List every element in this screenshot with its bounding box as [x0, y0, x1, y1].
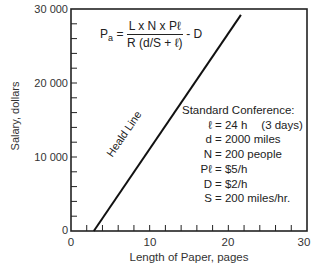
condition-value: = 200 people — [215, 147, 282, 162]
x-tick-0: 0 — [56, 236, 86, 248]
condition-value: = $5/h — [215, 162, 247, 177]
condition-row: Pℓ = $5/h — [182, 162, 303, 177]
formula-lhs: Pa — [100, 27, 113, 41]
condition-key: D — [182, 177, 215, 192]
formula-numerator: L x N x Pℓ — [127, 19, 183, 35]
condition-value: = 24 h — [215, 118, 247, 133]
y-tick-10000: 10 000 — [34, 151, 68, 163]
condition-value: = 200 miles/hr. — [215, 191, 290, 206]
formula-tail: - D — [186, 27, 202, 41]
condition-row: N = 200 people — [182, 147, 303, 162]
condition-row: D = $2/h — [182, 177, 303, 192]
condition-note: (3 days) — [261, 118, 303, 133]
x-tick-10: 10 — [135, 236, 165, 248]
condition-row: d = 2000 miles — [182, 132, 303, 147]
condition-row: ℓ = 24 h (3 days) — [182, 118, 303, 133]
conditions-block: Standard Conference: ℓ = 24 h (3 days) d… — [182, 103, 303, 206]
condition-value: = 2000 miles — [215, 132, 281, 147]
condition-key: S — [182, 191, 215, 206]
conditions-title: Standard Conference: — [182, 103, 303, 118]
condition-row: S = 200 miles/hr. — [182, 191, 303, 206]
y-tick-30000: 30 000 — [34, 3, 68, 15]
x-tick-20: 20 — [213, 236, 243, 248]
y-tick-20000: 20 000 — [34, 77, 68, 89]
formula-fraction: L x N x Pℓ R (d/S + ℓ) — [127, 19, 183, 50]
y-tick-0: 0 — [62, 224, 68, 236]
x-axis-label: Length of Paper, pages — [71, 251, 307, 263]
formula: Pa = L x N x Pℓ R (d/S + ℓ) - D — [100, 19, 202, 50]
y-axis-label: Salary, dollars — [9, 71, 21, 161]
x-tick-30: 30 — [289, 236, 311, 248]
condition-key: ℓ — [182, 118, 215, 133]
condition-key: d — [182, 132, 215, 147]
condition-value: = $2/h — [215, 177, 247, 192]
condition-key: Pℓ — [182, 162, 215, 177]
formula-denominator: R (d/S + ℓ) — [127, 35, 183, 50]
condition-key: N — [182, 147, 215, 162]
